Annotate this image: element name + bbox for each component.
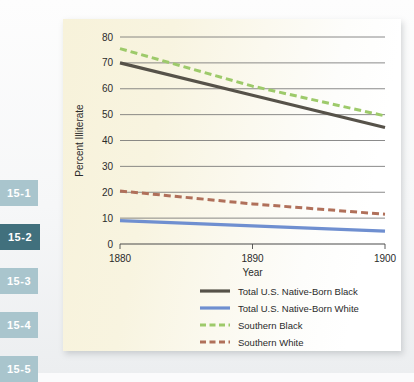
- y-tick-label: 70: [102, 57, 114, 68]
- series-line-3: [120, 191, 385, 214]
- legend-label-1: Total U.S. Native-Born White: [238, 303, 359, 314]
- x-tick-label: 1890: [241, 253, 264, 264]
- y-tick-label: 40: [102, 135, 114, 146]
- data-series-group: [120, 49, 385, 231]
- line-chart: 01020304050607080 188018901900 Percent I…: [63, 19, 401, 351]
- sidebar-tab-15-3[interactable]: 15-3: [0, 268, 38, 294]
- sidebar-tab-15-2[interactable]: 15-2: [0, 224, 40, 250]
- sidebar-tab-label: 15-4: [7, 319, 31, 331]
- x-axis-title: Year: [242, 267, 263, 278]
- y-tick-label: 60: [102, 83, 114, 94]
- sidebar-tab-label: 15-1: [7, 187, 31, 199]
- sidebar-tab-label: 15-3: [7, 275, 31, 287]
- series-line-0: [120, 63, 385, 128]
- y-tick-label: 0: [107, 239, 113, 250]
- x-axis-group: 188018901900: [109, 244, 397, 264]
- series-line-2: [120, 49, 385, 116]
- legend-label-0: Total U.S. Native-Born Black: [238, 286, 358, 297]
- y-tick-label: 20: [102, 187, 114, 198]
- y-axis-tick-labels: 01020304050607080: [102, 32, 114, 250]
- figure-panel: 01020304050607080 188018901900 Percent I…: [63, 19, 401, 351]
- sidebar-tab-15-4[interactable]: 15-4: [0, 312, 38, 338]
- sidebar-tab-15-5[interactable]: 15-5: [0, 356, 38, 382]
- sidebar-tab-label: 15-5: [7, 363, 31, 375]
- chapter-tab-sidebar: 15-1 15-2 15-3 15-4 15-5: [0, 0, 40, 373]
- y-tick-label: 80: [102, 32, 114, 43]
- x-axis-title-text: Year: [242, 267, 263, 278]
- y-tick-label: 10: [102, 213, 114, 224]
- chart-legend: Total U.S. Native-Born BlackTotal U.S. N…: [200, 286, 359, 348]
- legend-label-3: Southern White: [238, 337, 303, 348]
- y-tick-label: 30: [102, 161, 114, 172]
- x-tick-label: 1900: [374, 253, 397, 264]
- y-axis-title-text: Percent Illiterate: [74, 104, 85, 177]
- y-axis-title: Percent Illiterate: [74, 104, 85, 177]
- series-line-1: [120, 221, 385, 231]
- legend-label-2: Southern Black: [238, 320, 303, 331]
- sidebar-tab-label: 15-2: [8, 231, 32, 243]
- y-tick-label: 50: [102, 109, 114, 120]
- gridlines-group: [120, 37, 385, 244]
- x-tick-label: 1880: [109, 253, 132, 264]
- sidebar-tab-15-1[interactable]: 15-1: [0, 180, 38, 206]
